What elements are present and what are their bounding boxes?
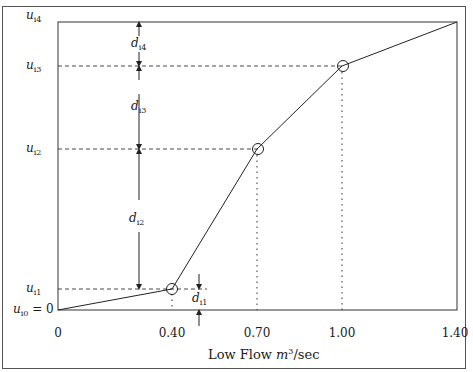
chart-plot <box>0 0 473 372</box>
y-label-u4: ui4 <box>26 8 41 24</box>
x-tick-0: 0 <box>54 326 62 340</box>
vertical-guides <box>172 72 342 310</box>
d-label-d3: di3 <box>131 99 146 115</box>
horizontal-guides <box>58 66 342 289</box>
distance-arrows <box>139 24 199 326</box>
x-axis-title: Low Flow m3/sec <box>208 347 319 362</box>
x-tick-140: 1.40 <box>442 326 469 340</box>
d-label-d4: di4 <box>131 36 146 52</box>
y-label-u3: ui3 <box>26 58 41 74</box>
d-label-d2: di2 <box>129 211 144 227</box>
d-label-d1: di1 <box>192 291 207 307</box>
y-label-u0: ui0 = 0 <box>13 302 54 318</box>
x-tick-100: 1.00 <box>329 326 356 340</box>
x-tick-070: 0.70 <box>244 326 271 340</box>
x-tick-040: 0.40 <box>159 326 186 340</box>
y-label-u1: ui1 <box>26 281 41 297</box>
y-label-u2: ui2 <box>26 141 41 157</box>
